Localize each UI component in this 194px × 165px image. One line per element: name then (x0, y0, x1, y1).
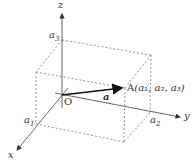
tick-a2: a2 (150, 115, 160, 128)
vector-a-arrow (62, 88, 122, 95)
origin-label: O (64, 97, 72, 107)
y-axis (55, 93, 180, 117)
z-axis-label: z (58, 0, 63, 10)
vector-a-label: a (103, 92, 109, 102)
vector-diagram: z y x O a3 a1 a2 a A(a₁, a₂, a₃) (0, 0, 194, 165)
x-axis-label: x (8, 150, 14, 160)
point-a-label: A(a₁, a₂, a₃) (127, 83, 185, 93)
tick-a3: a3 (49, 30, 59, 43)
y-axis-label: y (184, 111, 190, 121)
tick-a1: a1 (24, 115, 34, 128)
